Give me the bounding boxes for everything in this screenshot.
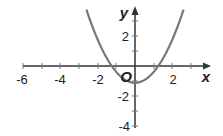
x-tick-label: -2 [92, 72, 104, 87]
y-tick-label: -2 [117, 89, 129, 104]
x-axis [23, 63, 211, 70]
y-axis-arrow-icon [132, 6, 139, 15]
y-axis-label: y [119, 4, 129, 21]
origin-label: O [120, 68, 132, 85]
y-tick-label: 2 [122, 29, 129, 44]
x-tick-label: -6 [16, 72, 28, 87]
function-graph: -6 -4 -2 2 2 -2 -4 O x y [0, 0, 223, 136]
y-tick-label: -4 [118, 119, 130, 134]
x-tick-label: 2 [169, 72, 176, 87]
x-axis-label: x [201, 68, 211, 85]
y-axis [132, 6, 139, 128]
x-tick-label: -4 [54, 72, 66, 87]
